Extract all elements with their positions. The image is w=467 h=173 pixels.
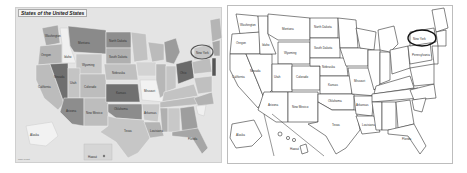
state-minnesota	[338, 18, 358, 48]
label-south-dakota: South Dakota	[314, 46, 333, 50]
label-texas: Texas	[124, 129, 132, 133]
label-montana: Montana	[78, 41, 90, 45]
label-california: California	[232, 75, 245, 79]
shaded-map-graphic: Washington Oregon Idaho Montana North Da…	[16, 8, 223, 164]
state-indiana	[166, 66, 176, 92]
label-kansas: Kansas	[116, 91, 127, 95]
map-credit: map credit	[18, 158, 30, 161]
label-oregon: Oregon	[236, 41, 246, 45]
label-wyoming: Wyoming	[82, 63, 95, 67]
state-indiana	[380, 52, 390, 84]
label-texas: Texas	[332, 123, 340, 127]
label-missouri: Missouri	[144, 89, 156, 93]
state-georgia	[396, 100, 414, 128]
state-new-jersey	[212, 58, 216, 76]
state-montana	[68, 26, 106, 54]
label-arkansas: Arkansas	[144, 111, 157, 115]
label-nevada: Nevada	[250, 69, 261, 73]
state-michigan	[378, 26, 398, 52]
label-new-york: New York	[196, 51, 209, 55]
label-south-dakota: South Dakota	[109, 55, 128, 59]
label-montana: Montana	[282, 27, 294, 31]
label-colorado: Colorado	[296, 75, 309, 79]
label-wyoming: Wyoming	[284, 51, 297, 55]
shaded-us-map: Washington Oregon Idaho Montana North Da…	[15, 7, 222, 163]
label-arizona: Arizona	[66, 109, 77, 113]
label-colorado: Colorado	[84, 85, 97, 89]
state-hawaii	[300, 144, 308, 154]
state-virginia	[194, 76, 212, 94]
label-nebraska: Nebraska	[112, 71, 125, 75]
label-washington: Washington	[240, 23, 256, 27]
state-ohio	[390, 46, 410, 74]
state-maine	[210, 18, 222, 42]
label-arizona: Arizona	[268, 103, 279, 107]
label-alaska: Alaska	[236, 133, 245, 137]
state-alaska	[230, 120, 262, 148]
inset-divider	[264, 114, 274, 156]
label-washington: Washington	[45, 34, 61, 38]
state-florida	[172, 128, 208, 154]
state-new-jersey	[432, 46, 438, 64]
label-north-dakota: North Dakota	[109, 39, 127, 43]
label-oklahoma: Oklahoma	[114, 107, 128, 111]
label-pennsylvania: Pennsylvania	[412, 53, 430, 57]
state-hawaii-island-2	[286, 136, 289, 139]
label-alaska: Alaska	[30, 133, 39, 137]
label-hawaii: Hawaii	[88, 155, 97, 159]
state-south-carolina	[412, 98, 426, 112]
state-wisconsin	[148, 42, 164, 62]
label-new-mexico: New Mexico	[86, 111, 103, 115]
label-utah: Utah	[274, 75, 281, 79]
state-hawaii	[103, 155, 105, 157]
label-north-dakota: North Dakota	[314, 25, 332, 29]
label-idaho: Idaho	[64, 55, 72, 59]
label-oregon: Oregon	[41, 53, 51, 57]
label-idaho: Idaho	[262, 43, 270, 47]
state-hawaii-island-1	[278, 132, 282, 136]
label-louisiana: Louisiana	[150, 129, 163, 133]
outline-us-map: Washington Oregon Idaho Montana North Da…	[227, 5, 453, 164]
state-iowa	[136, 62, 156, 76]
state-minnesota	[131, 32, 148, 62]
state-alabama	[382, 102, 396, 130]
label-ohio: Ohio	[180, 71, 187, 75]
label-new-york: New York	[413, 37, 426, 41]
map-title: States of the United States	[18, 9, 87, 17]
state-pennsylvania	[192, 58, 212, 74]
state-hawaii-island-3	[292, 138, 295, 141]
state-new-england	[436, 30, 446, 46]
label-hawaii: Hawaii	[290, 147, 299, 151]
label-new-mexico: New Mexico	[292, 105, 309, 109]
state-virginia	[410, 64, 434, 86]
state-south-carolina	[196, 105, 206, 116]
state-wisconsin	[356, 28, 376, 50]
label-kansas: Kansas	[328, 83, 339, 87]
label-utah: Utah	[70, 81, 77, 85]
state-alabama	[168, 108, 180, 132]
label-louisiana: Louisiana	[362, 123, 375, 127]
state-michigan	[164, 38, 180, 64]
state-north-carolina	[410, 84, 436, 100]
label-nebraska: Nebraska	[322, 65, 335, 69]
label-florida: Florida	[402, 137, 412, 141]
label-arkansas: Arkansas	[356, 103, 369, 107]
state-georgia	[180, 106, 198, 132]
state-arizona	[258, 92, 288, 122]
label-california: California	[38, 85, 51, 89]
state-maine	[432, 8, 448, 32]
label-oklahoma: Oklahoma	[328, 99, 342, 103]
label-nevada: Nevada	[54, 75, 65, 79]
label-missouri: Missouri	[354, 79, 366, 83]
outline-map-graphic: Washington Oregon Idaho Montana North Da…	[228, 6, 454, 165]
label-florida: Florida	[188, 137, 198, 141]
